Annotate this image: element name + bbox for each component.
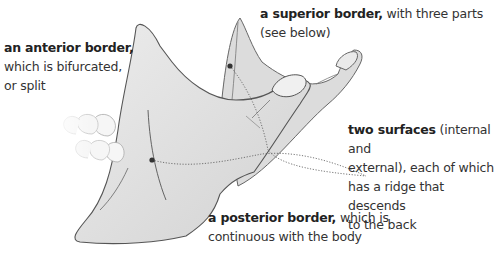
label-superior-title: a superior border, — [260, 6, 383, 21]
label-superior-border: a superior border, with three parts (see… — [260, 4, 490, 42]
label-superior-line2: (see below) — [260, 25, 330, 40]
label-anterior-border: an anterior border, which is bifurcated,… — [4, 38, 154, 95]
label-posterior-line2: continuous with the body — [208, 229, 362, 244]
label-posterior-title: a posterior border, — [208, 210, 336, 225]
anterior-dot — [149, 157, 154, 162]
label-surfaces-line2: external), each of which — [348, 160, 494, 175]
label-anterior-title: an anterior border, — [4, 40, 133, 55]
label-posterior-rest: which is — [336, 210, 389, 225]
label-anterior-line2: or split — [4, 78, 45, 93]
label-surfaces-title: two surfaces — [348, 122, 436, 137]
label-posterior-border: a posterior border, which is continuous … — [208, 208, 408, 246]
label-superior-rest: with three parts — [383, 6, 483, 21]
label-anterior-line1: which is bifurcated, — [4, 59, 122, 74]
superior-dot — [227, 63, 232, 68]
